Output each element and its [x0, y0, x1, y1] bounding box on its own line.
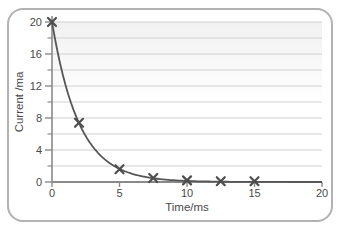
y-tick-label: 16 [30, 48, 42, 60]
y-tick-label: 12 [30, 80, 42, 92]
x-tick-label: 0 [49, 187, 55, 199]
current-decay-chart: 04812162005101520Time/msCurrent /ma [0, 0, 340, 230]
x-tick-label: 20 [316, 187, 328, 199]
x-tick-label: 10 [181, 187, 193, 199]
figure: 04812162005101520Time/msCurrent /ma [0, 0, 340, 230]
x-tick-label: 5 [116, 187, 122, 199]
y-tick-label: 8 [36, 112, 42, 124]
x-tick-label: 15 [248, 187, 260, 199]
y-tick-label: 4 [36, 144, 42, 156]
data-point-marker [75, 119, 83, 127]
y-tick-label: 20 [30, 16, 42, 28]
y-tick-label: 0 [36, 176, 42, 188]
x-axis-label: Time/ms [165, 201, 209, 213]
plot-top-shading [53, 22, 322, 104]
y-axis-label: Current /ma [13, 71, 25, 132]
